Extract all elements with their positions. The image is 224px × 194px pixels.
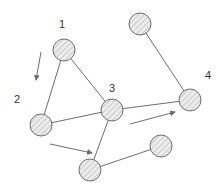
arrow-2-to-3-icon	[50, 144, 92, 153]
node-label-n3: 3	[109, 82, 115, 94]
arrow-3-to-4-icon	[130, 112, 175, 124]
node-label-n2: 2	[14, 93, 20, 105]
node-n_bottom_left	[79, 159, 101, 181]
nodes-layer	[30, 13, 201, 181]
edge-n1-n3	[64, 50, 112, 110]
edge-n_top-n4	[140, 24, 190, 100]
node-n_top	[129, 13, 151, 35]
node-n1	[53, 39, 75, 61]
edge-n1-n2	[41, 50, 64, 125]
node-n2	[30, 114, 52, 136]
node-n4	[179, 89, 201, 111]
arrow-1-to-2-icon	[36, 52, 41, 80]
node-label-n4: 4	[205, 69, 211, 81]
node-n_bottom_right	[150, 135, 172, 157]
node-n3	[101, 99, 123, 121]
node-label-n1: 1	[59, 18, 65, 30]
network-diagram: 1234	[0, 0, 224, 194]
labels-layer: 1234	[14, 18, 211, 105]
edge-n3-n4	[112, 100, 190, 110]
